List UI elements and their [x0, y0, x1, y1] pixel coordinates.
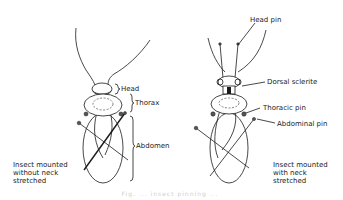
label-head: Head	[121, 85, 139, 93]
dorsal-sclerite-shape	[227, 87, 231, 94]
thorax-shape	[84, 94, 122, 116]
left-insect-caption: Insect mounted without neck stretched	[13, 161, 68, 185]
head-pin-right	[235, 44, 238, 78]
label-thoracic-pin: Thoracic pin	[263, 104, 306, 112]
label-abdomen: Abdomen	[136, 142, 170, 150]
head-shape	[92, 83, 112, 95]
thorax-bracket	[130, 94, 134, 112]
label-abdominal-pin: Abdominal pin	[277, 120, 327, 128]
label-dorsal-sclerite: Dorsal sclerite	[267, 78, 317, 86]
left-antenna	[76, 28, 95, 85]
label-head-pin: Head pin	[250, 16, 281, 24]
label-thorax: Thorax	[135, 99, 159, 107]
right-insect	[194, 23, 275, 183]
abdomen-bracket	[130, 116, 135, 181]
right-antenna	[108, 40, 150, 85]
right-insect-caption: Insect mounted with neck stretched	[273, 161, 328, 185]
figure-caption: Fig. ... insect pinning ...	[95, 190, 245, 198]
head-bracket	[115, 84, 120, 94]
head-pin-left	[220, 44, 223, 78]
